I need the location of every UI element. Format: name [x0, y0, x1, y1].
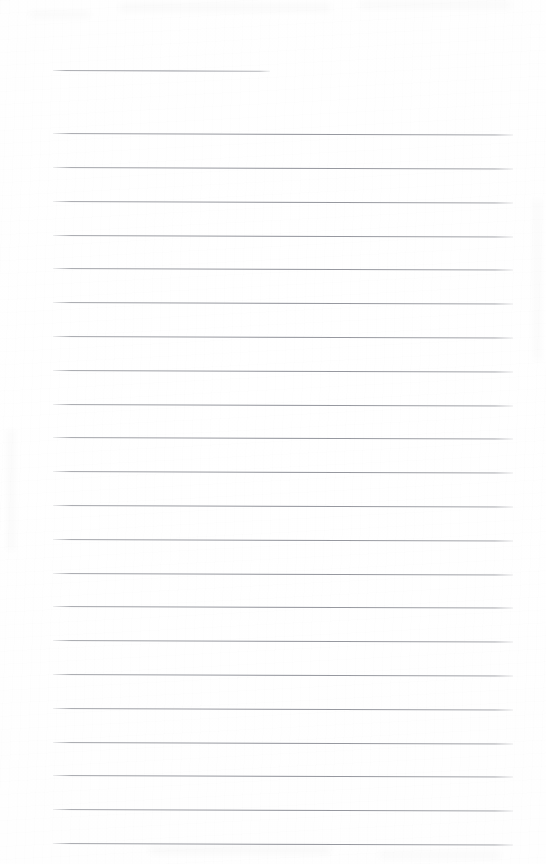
ruled-line [53, 573, 513, 575]
ruled-line [53, 505, 513, 507]
title-rule-line [53, 70, 270, 72]
ruled-line [53, 674, 513, 676]
ruled-line [53, 167, 513, 169]
ruled-line [53, 133, 513, 135]
ruled-line [53, 336, 513, 338]
ruled-line [53, 370, 513, 372]
ruled-line [53, 539, 513, 541]
ruled-line [53, 404, 513, 406]
ruled-line [53, 640, 513, 642]
ruled-line [53, 809, 513, 811]
ruled-line [53, 437, 513, 439]
ruled-line [53, 708, 513, 710]
ruled-line [53, 742, 513, 744]
ruled-line [53, 302, 513, 304]
ruled-line [53, 268, 513, 270]
ruled-line [53, 606, 513, 608]
notebook-page [0, 0, 546, 864]
ruled-line [53, 201, 513, 203]
ruled-lines-layer [0, 0, 546, 864]
ruled-line [53, 843, 513, 845]
ruled-line [53, 471, 513, 473]
ruled-line [53, 775, 513, 777]
ruled-line [53, 235, 513, 237]
